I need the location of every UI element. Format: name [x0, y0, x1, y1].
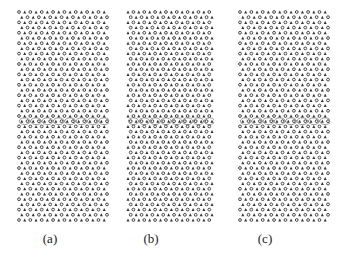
caption-a: (a)	[30, 231, 70, 247]
lattice-panel-b	[126, 9, 214, 225]
lattice-svg	[126, 9, 214, 225]
lattice-panel-c	[238, 9, 330, 225]
lattice-svg	[17, 9, 109, 225]
lattice-panel-a	[17, 9, 109, 225]
caption-c: (c)	[245, 231, 285, 247]
lattice-svg	[238, 9, 330, 225]
caption-b: (b)	[131, 231, 171, 247]
